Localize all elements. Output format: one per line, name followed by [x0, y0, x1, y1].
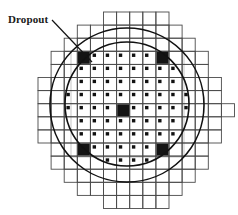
pixel-marker [158, 80, 161, 83]
pixel-marker [132, 67, 135, 70]
pixel-marker [80, 93, 83, 96]
pixel-marker [171, 93, 174, 96]
pixel-marker [132, 132, 135, 135]
pixel-marker [80, 132, 83, 135]
pixel-marker [158, 132, 161, 135]
pixel-marker [66, 106, 69, 109]
pixel-marker [132, 54, 135, 57]
pixel-marker [93, 145, 96, 148]
pixel-marker [93, 67, 96, 70]
pixel-marker [106, 158, 109, 161]
pixel-marker [93, 132, 96, 135]
pixel-marker [158, 119, 161, 122]
pixel-marker [80, 106, 83, 109]
pixel-marker [171, 106, 174, 109]
pixel-marker [132, 106, 135, 109]
pixel-marker [119, 67, 122, 70]
pixel-marker [106, 132, 109, 135]
pixel-marker [119, 158, 122, 161]
pixel-marker [106, 54, 109, 57]
pixel-marker [145, 158, 148, 161]
pixel-marker [106, 67, 109, 70]
pixel-marker [171, 80, 174, 83]
pixel-marker [145, 106, 148, 109]
pixel-marker [145, 132, 148, 135]
pixel-marker [119, 119, 122, 122]
pixel-marker [66, 93, 69, 96]
pixel-marker [119, 54, 122, 57]
pixel-marker [106, 119, 109, 122]
pixel-marker [119, 145, 122, 148]
pixel-marker [132, 119, 135, 122]
pixel-marker [158, 67, 161, 70]
pixel-marker [145, 145, 148, 148]
pixel-marker [119, 80, 122, 83]
dropout-center [117, 104, 129, 116]
pixel-marker [145, 54, 148, 57]
pixel-marker [106, 80, 109, 83]
pixel-marker [145, 119, 148, 122]
pixel-marker [132, 93, 135, 96]
pixel-marker [184, 93, 187, 96]
dropout-lower-right [157, 144, 169, 156]
pixel-marker [145, 93, 148, 96]
pixel-marker [93, 106, 96, 109]
pixel-marker [132, 80, 135, 83]
pixel-marker [93, 93, 96, 96]
pixel-marker [132, 145, 135, 148]
pixel-marker [158, 106, 161, 109]
pixel-marker [119, 132, 122, 135]
pixel-marker [80, 67, 83, 70]
pixel-marker [106, 145, 109, 148]
pixel-marker [106, 106, 109, 109]
pixel-marker [171, 67, 174, 70]
pixel-marker [80, 119, 83, 122]
pixel-marker [93, 54, 96, 57]
pixel-marker [145, 67, 148, 70]
dropout-diagram [0, 0, 238, 215]
pixel-marker [132, 158, 135, 161]
pixel-marker [171, 132, 174, 135]
pixel-marker [93, 80, 96, 83]
pixel-marker [145, 80, 148, 83]
dropout-label: Dropout [8, 13, 48, 25]
pixel-marker [184, 106, 187, 109]
pixel-marker [158, 93, 161, 96]
pixel-marker [106, 93, 109, 96]
pixel-marker [171, 119, 174, 122]
pixel-marker [80, 80, 83, 83]
pixel-marker [93, 119, 96, 122]
pixel-marker [119, 93, 122, 96]
